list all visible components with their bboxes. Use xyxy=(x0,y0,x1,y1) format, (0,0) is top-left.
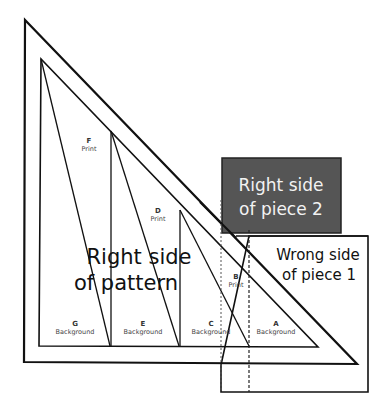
section-B-letter: B xyxy=(233,273,238,281)
piece1-label-line2: of piece 1 xyxy=(282,266,356,284)
section-F-fabric: Print xyxy=(82,145,97,153)
section-G-fabric: Background xyxy=(56,328,95,336)
section-G-letter: G xyxy=(72,320,78,328)
section-F-letter: F xyxy=(87,137,92,145)
paper-piecing-diagram: F Print D Print B Print G Background E B… xyxy=(0,0,391,411)
piece2-label-line2: of piece 2 xyxy=(239,199,323,219)
piece2-label-line1: Right side xyxy=(239,175,324,195)
section-C-fabric: Background xyxy=(192,328,231,336)
section-D-fabric: Print xyxy=(151,215,166,223)
section-E-letter: E xyxy=(141,320,146,328)
section-C-letter: C xyxy=(208,320,213,328)
section-D-letter: D xyxy=(155,207,161,215)
section-B-fabric: Print xyxy=(229,281,244,289)
section-A-fabric: Background xyxy=(257,328,296,336)
section-A-letter: A xyxy=(273,320,279,328)
piece-2-box xyxy=(222,158,341,233)
pattern-label-line1: Right side xyxy=(87,245,192,269)
piece1-label-line1: Wrong side xyxy=(276,246,360,264)
pattern-label-line2: of pattern xyxy=(74,271,178,295)
section-E-fabric: Background xyxy=(124,328,163,336)
